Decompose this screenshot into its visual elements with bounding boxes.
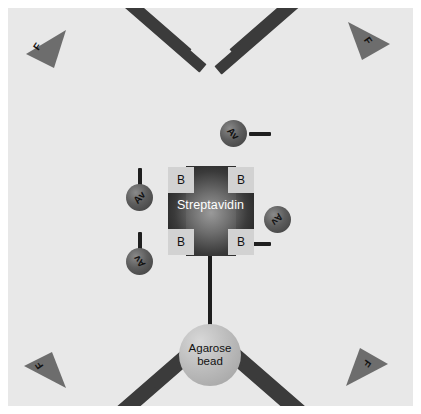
biotin-box-bottom-left: B bbox=[168, 229, 194, 255]
biotin-label: B bbox=[177, 235, 185, 249]
biotin-label: B bbox=[177, 173, 185, 187]
agarose-bead: Agarose bead bbox=[179, 324, 241, 386]
diagram-panel: F Av F Av F bbox=[8, 8, 413, 406]
biotin-box-top-left: B bbox=[168, 167, 194, 193]
agarose-bead-label-line2: bead bbox=[197, 355, 223, 368]
agarose-bead-label-line1: Agarose bbox=[189, 342, 232, 355]
streptavidin-label: Streptavidin bbox=[8, 198, 413, 212]
avidin-label: Av bbox=[269, 211, 285, 228]
biotin-box-top-right: B bbox=[228, 167, 254, 193]
biotin-label: B bbox=[237, 235, 245, 249]
diagram-canvas: F Av F Av F bbox=[8, 8, 413, 406]
biotin-label: B bbox=[237, 173, 245, 187]
biotin-box-bottom-right: B bbox=[228, 229, 254, 255]
